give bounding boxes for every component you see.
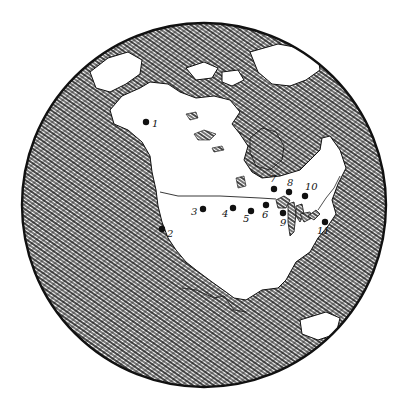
point-label: 6 — [262, 209, 269, 220]
point-label: 2 — [166, 228, 173, 239]
point-label: 7 — [270, 173, 277, 184]
point-label: 3 — [191, 206, 197, 217]
point-label: 1 — [152, 118, 158, 129]
point-label: 9 — [280, 217, 287, 228]
point-marker — [280, 210, 286, 216]
map-point-9: 9 — [280, 210, 287, 228]
point-marker — [302, 193, 308, 199]
point-marker — [271, 186, 277, 192]
map-point-6: 6 — [262, 202, 269, 220]
point-marker — [159, 226, 165, 232]
point-label: 5 — [243, 213, 249, 224]
globe-map: 1234567891011 — [0, 0, 408, 407]
point-marker — [286, 189, 292, 195]
point-label: 4 — [221, 208, 228, 219]
point-label: 10 — [305, 181, 318, 192]
map-point-7: 7 — [270, 173, 277, 192]
point-label: 11 — [317, 225, 330, 236]
point-marker — [263, 202, 269, 208]
point-label: 8 — [287, 177, 293, 188]
point-marker — [143, 119, 149, 125]
point-marker — [230, 205, 236, 211]
point-marker — [200, 206, 206, 212]
